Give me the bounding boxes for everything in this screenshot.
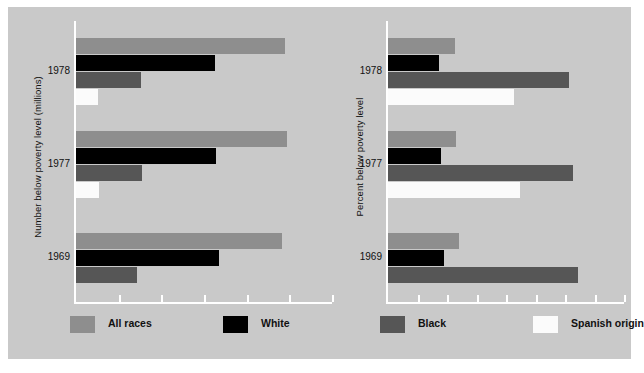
bar-spanish-1977 [388,182,520,198]
x-axis-tick [477,295,479,302]
bar-black-1969 [76,267,137,283]
year-label-1978: 1978 [26,65,70,76]
year-label-1969: 1969 [26,251,70,262]
bar-spanish-1978 [388,89,514,105]
bar-all-races-1969 [388,233,459,249]
bar-black-1969 [388,267,578,283]
x-axis-tick [204,295,206,302]
bar-all-races-1969 [76,233,282,249]
year-label-1977: 1977 [340,158,382,169]
x-axis-tick [119,295,121,302]
x-axis-tick [247,295,249,302]
year-label-1978: 1978 [340,65,382,76]
x-axis-tick [506,295,508,302]
bar-black-1978 [76,72,141,88]
x-axis-tick [565,295,567,302]
bar-white-1978 [388,55,439,71]
bar-spanish-1977 [76,182,99,198]
bar-white-1977 [76,148,216,164]
x-axis-line-left [74,302,332,304]
bar-black-1977 [388,165,573,181]
legend-label-all-races: All races [108,317,152,329]
x-axis-tick [332,295,334,302]
bar-spanish-1978 [76,89,98,105]
legend-label-spanish: Spanish origin [571,317,644,329]
bar-white-1969 [76,250,219,266]
bar-all-races-1977 [76,131,287,147]
x-axis-line-right [386,302,624,304]
bar-black-1978 [388,72,569,88]
bar-black-1977 [76,165,142,181]
x-axis-tick [289,295,291,302]
plot-area-left: 197819771969 [74,21,332,304]
year-label-1977: 1977 [26,158,70,169]
chart-legend: All races White Black Spanish origin [8,313,631,347]
year-label-1969: 1969 [340,251,382,262]
chart-panel-number: Number below poverty level (millions) 19… [8,7,338,307]
figure-canvas: Number below poverty level (millions) 19… [8,7,631,359]
bar-all-races-1978 [388,38,455,54]
x-axis-tick [624,295,626,302]
chart-panel-percent: Percent below poverty level 197819771969 [338,7,631,307]
bar-white-1977 [388,148,441,164]
bar-white-1978 [76,55,215,71]
legend-label-white: White [261,317,290,329]
bar-all-races-1978 [76,38,285,54]
bar-all-races-1977 [388,131,456,147]
x-axis-tick [595,295,597,302]
legend-swatch-white [223,316,248,333]
x-axis-tick [447,295,449,302]
x-axis-tick [418,295,420,302]
legend-label-black: Black [418,317,446,329]
plot-area-right: 197819771969 [386,21,624,304]
x-axis-tick [161,295,163,302]
bar-white-1969 [388,250,444,266]
x-axis-tick [536,295,538,302]
legend-swatch-spanish [533,316,558,333]
legend-swatch-all-races [70,316,95,333]
legend-swatch-black [380,316,405,333]
